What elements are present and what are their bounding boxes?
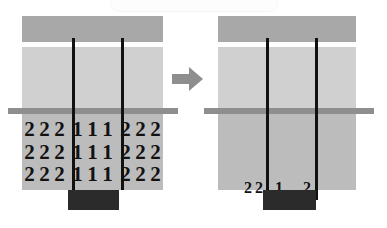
digit: 2 xyxy=(255,180,263,196)
right-arrow-icon xyxy=(172,66,204,92)
right-top-plate xyxy=(218,16,356,42)
left-horizontal-bar xyxy=(8,108,178,114)
right-base-block xyxy=(263,190,316,210)
right-lower-body xyxy=(218,114,356,190)
digit: 2 xyxy=(244,180,252,196)
right-horizontal-bar xyxy=(204,108,374,114)
top-rounded-card xyxy=(110,0,278,12)
diagram-canvas: 2 2 2 1 1 1 2 2 2 2 2 xyxy=(0,0,387,228)
right-vertical-line-2 xyxy=(315,38,318,200)
left-top-plate xyxy=(22,16,163,42)
left-vertical-line-1 xyxy=(72,38,75,190)
left-lower-body xyxy=(22,114,163,190)
left-middle-body xyxy=(22,47,163,110)
right-middle-body xyxy=(218,47,356,110)
right-vertical-line-1 xyxy=(266,38,269,200)
left-base-block xyxy=(68,190,119,210)
left-vertical-line-2 xyxy=(121,38,124,190)
